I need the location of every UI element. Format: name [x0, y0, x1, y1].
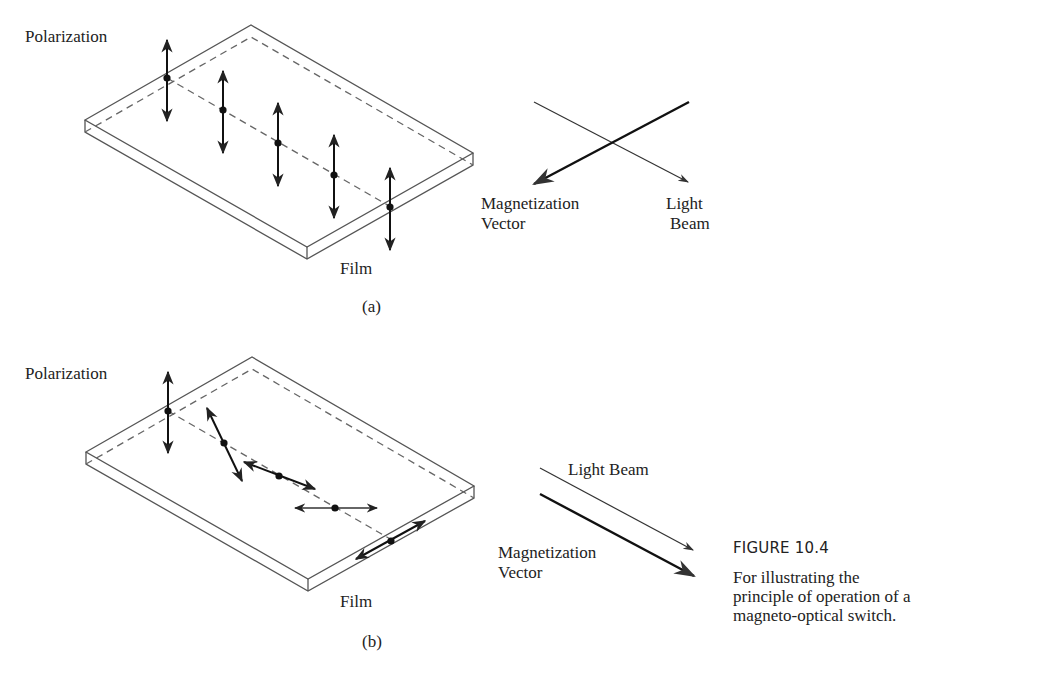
- figure-caption: For illustrating the principle of operat…: [733, 568, 923, 625]
- panel-b-light-beam-arrow-icon: [540, 468, 693, 550]
- figure-title: FIGURE 10.4: [733, 539, 829, 557]
- polarization-arrow-icon: [207, 408, 242, 481]
- polarization-arrow-icon: [274, 103, 281, 186]
- polarization-arrow-icon: [330, 135, 337, 218]
- panel-a-light-label-line2: Beam: [666, 214, 710, 234]
- panel-b-magnetization-label-line2: Vector: [498, 563, 596, 583]
- panel-b-magnetization-label-line1: Magnetization: [498, 543, 596, 563]
- panel-a-light-label-line1: Light: [666, 194, 710, 214]
- panel-a-polarization-arrows: [163, 40, 393, 250]
- polarization-arrow-icon: [244, 462, 315, 489]
- panel-b-light-label: Light Beam: [568, 460, 649, 480]
- panel-b-panel-label: (b): [362, 632, 382, 652]
- panel-a-magnetization-label-line2: Vector: [481, 214, 579, 234]
- polarization-arrow-icon: [219, 71, 226, 153]
- panel-b-polarization-label: Polarization: [25, 364, 107, 384]
- panel-a-polarization-label: Polarization: [25, 27, 107, 47]
- panel-b-magnetization-label: Magnetization Vector: [498, 543, 596, 583]
- panel-a-magnetization-label: Magnetization Vector: [481, 194, 579, 234]
- panel-b-film-label: Film: [340, 592, 372, 612]
- panel-a-magnetization-label-line1: Magnetization: [481, 194, 579, 214]
- panel-a-light-label: Light Beam: [666, 194, 710, 234]
- polarization-arrow-icon: [164, 372, 171, 453]
- polarization-arrow-icon: [356, 521, 425, 559]
- polarization-arrow-icon: [386, 168, 393, 250]
- panel-a-film-label: Film: [340, 259, 372, 279]
- polarization-arrow-icon: [295, 504, 377, 511]
- polarization-arrow-icon: [163, 40, 170, 121]
- panel-a-panel-label: (a): [362, 297, 381, 317]
